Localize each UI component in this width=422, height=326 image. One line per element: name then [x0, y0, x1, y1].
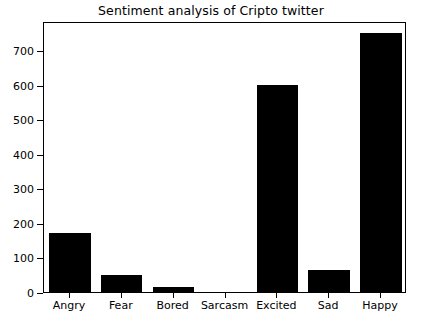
bar-slot	[251, 23, 303, 292]
bar-fear	[101, 275, 142, 292]
x-tick-mark	[121, 293, 122, 298]
x-tick-mark	[328, 293, 329, 298]
y-tick-mark	[37, 293, 43, 294]
x-tick-label-sarcasm: Sarcasm	[201, 299, 248, 312]
x-tick-mark	[225, 293, 226, 298]
y-tick-label: 0	[0, 287, 34, 300]
bar-chart-figure: Sentiment analysis of Cripto twitter 010…	[0, 0, 422, 326]
x-tick-label-sad: Sad	[318, 299, 339, 312]
bar-excited	[257, 85, 298, 292]
x-tick-mark	[380, 293, 381, 298]
x-tick-label-happy: Happy	[362, 299, 398, 312]
bar-slot	[200, 23, 252, 292]
bar-slot	[44, 23, 96, 292]
bar-happy	[360, 33, 401, 292]
bar-slot	[96, 23, 148, 292]
x-tick-mark	[173, 293, 174, 298]
x-tick-label-bored: Bored	[156, 299, 188, 312]
y-tick-label: 200	[0, 217, 34, 230]
x-tick-label-fear: Fear	[109, 299, 133, 312]
x-tick-label-excited: Excited	[256, 299, 296, 312]
x-tick-label-angry: Angry	[53, 299, 86, 312]
bar-sad	[308, 270, 349, 292]
plot-area	[43, 22, 406, 293]
y-tick-label: 700	[0, 45, 34, 58]
y-tick-label: 400	[0, 148, 34, 161]
bar-slot	[355, 23, 407, 292]
bar-angry	[49, 233, 90, 292]
y-tick-label: 100	[0, 252, 34, 265]
chart-title: Sentiment analysis of Cripto twitter	[0, 3, 422, 18]
y-tick-label: 500	[0, 114, 34, 127]
bar-bored	[153, 287, 194, 292]
bar-slot	[303, 23, 355, 292]
x-tick-mark	[69, 293, 70, 298]
y-tick-label: 300	[0, 183, 34, 196]
bar-slot	[148, 23, 200, 292]
bars-layer	[44, 23, 405, 292]
y-tick-label: 600	[0, 79, 34, 92]
x-tick-mark	[276, 293, 277, 298]
